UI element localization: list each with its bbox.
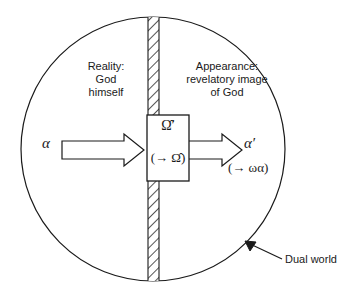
box-top-symbol: Ω̂′ xyxy=(147,118,189,135)
diagram-vector-layer xyxy=(0,0,363,295)
diagram-canvas: Reality: God himself Appearance: revelat… xyxy=(0,0,363,295)
dual-world-label: Dual world xyxy=(285,253,337,266)
reality-label: Reality: God himself xyxy=(64,60,148,99)
input-symbol-label: α xyxy=(42,135,50,153)
output-symbol-label: α′ xyxy=(244,135,255,153)
output-sub-symbol-label: (→ ωα) xyxy=(228,160,268,175)
box-bottom-symbol: (→ Ω̂) xyxy=(145,150,191,165)
appearance-label: Appearance: revelatory image of God xyxy=(168,60,286,99)
